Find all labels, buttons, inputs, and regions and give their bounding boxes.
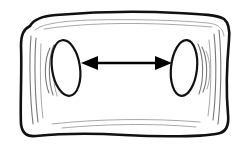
figure-canvas — [0, 0, 243, 153]
hand-drawn-diagram — [0, 0, 243, 153]
